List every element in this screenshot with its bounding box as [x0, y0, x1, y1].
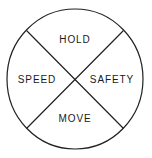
sector-label-left: SPEED — [18, 75, 56, 85]
sector-label-bottom: MOVE — [58, 114, 91, 124]
quadrant-wheel-diagram: HOLD SPEED SAFETY MOVE — [0, 0, 152, 158]
sector-label-top: HOLD — [59, 35, 90, 45]
sector-label-right: SAFETY — [90, 75, 134, 85]
